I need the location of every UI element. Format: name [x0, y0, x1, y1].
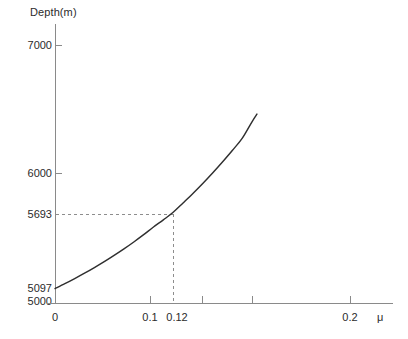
chart-container: Depth(m) μ 7000 6000 5693 5097 5000 0 0.…: [0, 0, 408, 339]
data-curve: [55, 114, 257, 288]
plot-area: [0, 0, 408, 339]
